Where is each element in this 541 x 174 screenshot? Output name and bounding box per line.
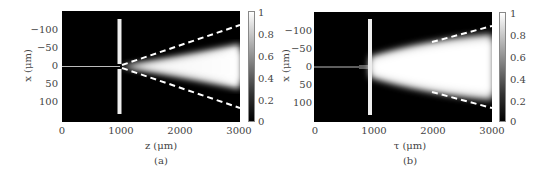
y-tick: 50 — [282, 80, 312, 90]
x-tick: 2000 — [418, 126, 448, 136]
colorbar-tick: 0.8 — [510, 31, 526, 41]
x-axis-label: τ (μm) — [370, 140, 450, 151]
x-tick: 3000 — [477, 126, 507, 136]
x-axis-label: z (μm) — [121, 140, 201, 151]
y-tick: −50 — [282, 44, 312, 54]
x-tick: 2000 — [165, 126, 195, 136]
colorbar-tick: 0 — [510, 117, 516, 127]
y-tick: 0 — [28, 61, 58, 71]
panel-b: x (μm) −100 −50 0 50 100 0 1000 2000 300… — [270, 0, 540, 174]
y-tick: 50 — [28, 79, 58, 89]
x-tick: 3000 — [224, 126, 254, 136]
colorbar-tick: 0 — [258, 117, 264, 127]
x-tick: 1000 — [359, 126, 389, 136]
colorbar-tick: 0.6 — [510, 53, 526, 63]
colorbar — [248, 11, 255, 122]
y-tick: −100 — [282, 26, 312, 36]
y-tick: 100 — [28, 97, 58, 107]
heatmap-image — [314, 12, 492, 122]
heatmap-plot-area — [62, 11, 240, 122]
y-tick: 100 — [282, 98, 312, 108]
colorbar-tick: 0.4 — [510, 75, 526, 85]
x-tick: 0 — [47, 126, 77, 136]
panel-label: (a) — [141, 155, 181, 166]
panel-label: (b) — [390, 155, 430, 166]
heatmap-plot-area — [314, 12, 492, 122]
colorbar — [499, 12, 506, 122]
y-tick: −50 — [28, 43, 58, 53]
y-tick: 0 — [282, 62, 312, 72]
colorbar-tick: 0.2 — [510, 97, 526, 107]
x-tick: 1000 — [106, 126, 136, 136]
colorbar-tick: 1 — [510, 9, 516, 19]
x-tick: 0 — [300, 126, 330, 136]
y-tick: −100 — [28, 25, 58, 35]
panel-a: x (μm) −100 −50 0 50 100 — [0, 0, 270, 174]
heatmap-image — [62, 11, 240, 122]
colorbar-tick: 1 — [258, 8, 264, 18]
